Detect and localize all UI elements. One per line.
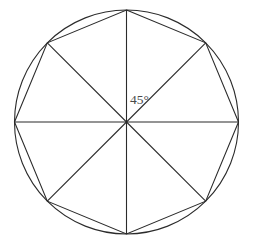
radii-group (15, 10, 239, 234)
radius-north-west (47, 43, 126, 122)
geometry-canvas: 45° (0, 0, 253, 243)
radius-south-east (127, 122, 206, 201)
geometry-figure: 45° (0, 0, 253, 243)
radius-north-east (127, 43, 206, 122)
central-angle-label: 45° (130, 92, 149, 107)
radius-south-west (47, 122, 126, 201)
